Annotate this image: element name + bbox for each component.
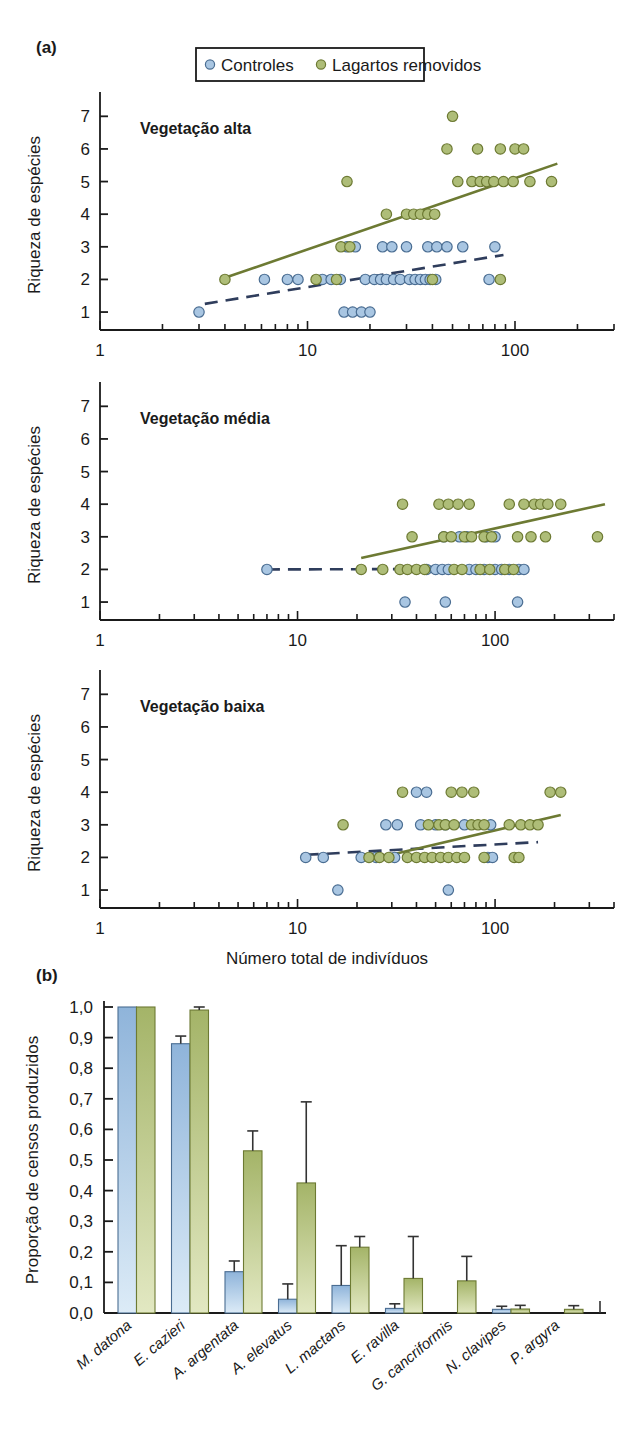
- data-point: [519, 564, 529, 574]
- data-point: [333, 885, 343, 895]
- data-point: [423, 820, 433, 830]
- bar-removidos: [244, 1151, 263, 1313]
- panel-b-label: (b): [36, 966, 58, 986]
- data-point: [443, 885, 453, 895]
- data-point: [338, 820, 348, 830]
- data-point: [392, 820, 402, 830]
- x-tick-label: 1: [95, 341, 104, 360]
- x-tick-label: 1: [95, 631, 104, 650]
- data-point: [512, 597, 522, 607]
- data-point: [490, 242, 500, 252]
- y-tick-label: 3: [81, 816, 90, 835]
- data-point: [449, 820, 459, 830]
- y-tick-label: 4: [81, 783, 90, 802]
- data-point: [486, 532, 496, 542]
- data-point: [446, 532, 456, 542]
- bar-removidos: [190, 1010, 209, 1313]
- bar-controles: [493, 1309, 512, 1313]
- y-tick-label: 0,2: [69, 1243, 93, 1262]
- bar-removidos: [458, 1281, 477, 1313]
- x-tick-label: 100: [481, 631, 509, 650]
- bar-removidos: [404, 1278, 423, 1313]
- data-point: [504, 820, 514, 830]
- x-axis-title: Número total de indivíduos: [226, 949, 428, 968]
- data-point: [479, 852, 489, 862]
- data-point: [498, 176, 508, 186]
- y-tick-label: 5: [81, 173, 90, 192]
- y-axis-title: Riqueza de espécies: [25, 136, 44, 294]
- data-point: [472, 144, 482, 154]
- data-point: [331, 274, 341, 284]
- data-point: [446, 787, 456, 797]
- data-point: [533, 820, 543, 830]
- data-point: [508, 564, 518, 574]
- bar-controles: [386, 1308, 405, 1313]
- data-point: [518, 144, 528, 154]
- data-point: [365, 307, 375, 317]
- bar-removidos: [137, 1007, 156, 1313]
- x-tick-label: 10: [288, 919, 307, 938]
- y-tick-label: 0,3: [69, 1212, 93, 1231]
- data-point: [397, 787, 407, 797]
- data-point: [356, 564, 366, 574]
- data-point: [592, 532, 602, 542]
- data-point: [301, 852, 311, 862]
- y-tick-label: 2: [81, 560, 90, 579]
- bar-removidos: [565, 1309, 584, 1313]
- data-point: [194, 307, 204, 317]
- data-point: [427, 274, 437, 284]
- y-tick-label: 6: [81, 140, 90, 159]
- x-tick-label: 1: [95, 919, 104, 938]
- data-point: [440, 597, 450, 607]
- data-point: [540, 532, 550, 542]
- data-point: [381, 209, 391, 219]
- data-point: [411, 787, 421, 797]
- legend-label: Lagartos removidos: [332, 56, 481, 75]
- data-point: [479, 820, 489, 830]
- x-tick-label: 100: [501, 341, 529, 360]
- bar-controles: [225, 1272, 244, 1313]
- data-point: [419, 564, 429, 574]
- data-point: [545, 787, 555, 797]
- data-point: [429, 209, 439, 219]
- data-point: [345, 242, 355, 252]
- y-tick-label: 0,5: [69, 1151, 93, 1170]
- y-tick-label: 0,7: [69, 1090, 93, 1109]
- data-point: [466, 532, 476, 542]
- y-tick-label: 0,6: [69, 1120, 93, 1139]
- data-point: [556, 787, 566, 797]
- y-axis-title: Proporção de censos produzidos: [23, 1036, 42, 1285]
- y-tick-label: 2: [81, 270, 90, 289]
- figure-canvas: 1234567110100Vegetação altaRiqueza de es…: [0, 0, 622, 1435]
- y-tick-label: 0,9: [69, 1029, 93, 1048]
- data-point: [400, 597, 410, 607]
- data-point: [262, 564, 272, 574]
- data-point: [495, 144, 505, 154]
- bar-removidos: [351, 1247, 370, 1313]
- data-point: [495, 274, 505, 284]
- data-point: [519, 499, 529, 509]
- data-point: [475, 564, 485, 574]
- data-point: [464, 499, 474, 509]
- figure-root: 1234567110100Vegetação altaRiqueza de es…: [0, 0, 622, 1435]
- y-tick-label: 4: [81, 495, 90, 514]
- data-point: [342, 176, 352, 186]
- data-point: [442, 242, 452, 252]
- data-point: [381, 820, 391, 830]
- panel-a-label: (a): [36, 38, 57, 58]
- plot-title: Vegetação baixa: [140, 698, 265, 715]
- bar-removidos: [511, 1309, 530, 1313]
- data-point: [259, 274, 269, 284]
- data-point: [525, 176, 535, 186]
- x-tick-label: 100: [481, 919, 509, 938]
- plot-title: Vegetação alta: [140, 120, 251, 137]
- data-point: [459, 852, 469, 862]
- y-axis-title: Riqueza de espécies: [25, 714, 44, 872]
- data-point: [508, 176, 518, 186]
- data-point: [458, 242, 468, 252]
- data-point: [457, 787, 467, 797]
- y-tick-label: 1: [81, 593, 90, 612]
- data-point: [311, 274, 321, 284]
- data-point: [453, 499, 463, 509]
- data-point: [543, 499, 553, 509]
